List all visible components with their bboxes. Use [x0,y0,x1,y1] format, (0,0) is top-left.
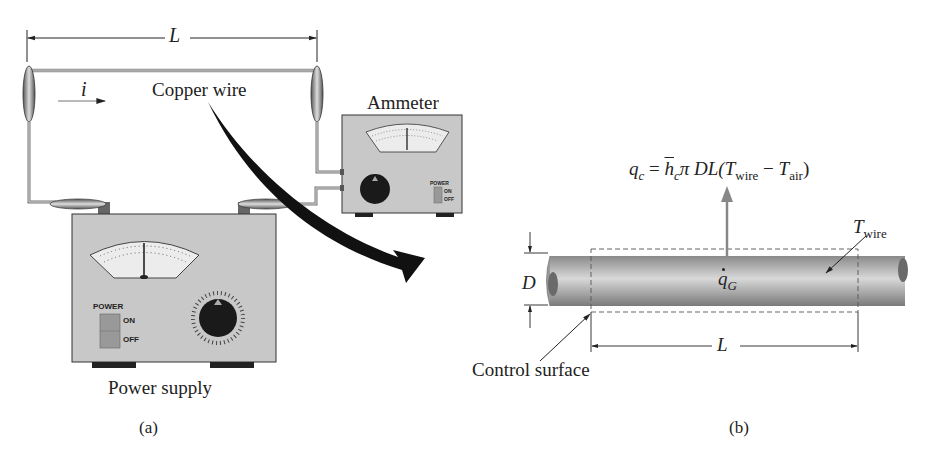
power-supply-device [50,199,294,368]
length-label-a: L [169,24,180,47]
control-surface-label: Control surface [472,359,590,381]
twire-label: Twire [853,216,887,242]
generation-label: qG [718,268,737,294]
left-alligator-clip [23,66,56,202]
diameter-label: D [522,272,536,294]
ammeter-on-label: ON [444,188,452,194]
length-label-b: L [717,334,728,356]
convection-equation: qc = hcπ DL(Twire − Tair) [629,158,809,184]
right-alligator-clip [290,66,342,204]
heat-flux-arrow [721,186,733,256]
supply-off-label: OFF [123,335,139,344]
power-supply-label: Power supply [108,377,212,399]
supply-power-label: POWER [93,302,123,311]
ammeter-power-label: POWER [430,180,449,186]
control-surface-leader [540,314,590,361]
generation-dot [722,268,725,271]
ammeter-off-label: OFF [444,196,454,202]
ammeter-label: Ammeter [367,92,439,114]
supply-on-label: ON [123,316,135,325]
caption-a: (a) [139,418,158,438]
caption-b: (b) [729,418,749,438]
copper-wire-label: Copper wire [152,79,246,101]
copper-wire [28,69,318,72]
current-label: i [81,78,87,101]
